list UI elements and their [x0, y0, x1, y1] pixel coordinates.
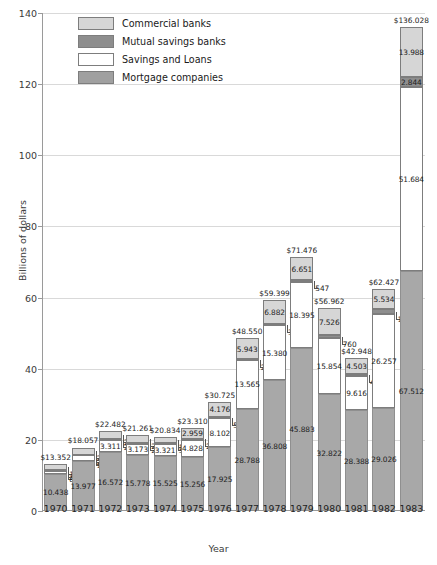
bar-total-label: $22.482	[95, 420, 126, 429]
bar-value-label-mortgage: 10.438	[43, 488, 68, 497]
legend-swatch-mortgage-companies	[78, 71, 114, 84]
bar-group[interactable]: 32.82215.8547607.526$56.962	[318, 308, 341, 511]
bar-segment-mutual[interactable]	[318, 335, 341, 338]
bar-value-label-savings: 3.311	[100, 442, 121, 451]
bar-value-label-commercial: 7.526	[319, 317, 340, 326]
bar-group[interactable]: 16.5723.3112612.338$22.482	[99, 431, 122, 511]
bar-total-label: $42.948	[341, 347, 372, 356]
bar-total-label: $62.427	[369, 278, 400, 287]
bar-group[interactable]: 13.9771.6412342.005$18.057	[72, 447, 95, 511]
bar-group[interactable]: 28.3889.6164414.503$42.948	[345, 358, 368, 511]
bar-value-label-commercial: 13.988	[399, 48, 424, 57]
bar-value-label-commercial: 4.503	[346, 362, 367, 371]
legend-label-savings-and-loans: Savings and Loans	[122, 54, 212, 65]
legend-label-mortgage-companies: Mortgage companies	[122, 72, 223, 83]
legend-item-commercial-banks: Commercial banks	[78, 14, 226, 32]
bar-value-label-savings: 3.173	[127, 445, 148, 454]
bar-value-label-mortgage: 32.822	[317, 448, 342, 457]
bar-group[interactable]: 29.02626.2571.6105.534$62.427	[372, 289, 395, 511]
bar-value-label-savings: 15.380	[262, 348, 287, 357]
bar-segment-mutual[interactable]	[290, 280, 313, 282]
bar-total-label: $18.057	[68, 436, 99, 445]
bar-value-label-commercial: 4.176	[209, 405, 230, 414]
legend-label-mutual-savings-banks: Mutual savings banks	[122, 36, 226, 47]
y-axis-tick-label: 0	[31, 506, 37, 517]
y-axis-tick-label: 20	[25, 434, 37, 445]
x-axis-tick-label: 1983	[399, 503, 423, 514]
bar-segment-mutual[interactable]	[208, 416, 231, 418]
x-axis-tick-label: 1979	[290, 503, 314, 514]
bar-segment-savings[interactable]	[72, 455, 95, 461]
bar-value-label-savings: 4.828	[182, 444, 203, 453]
bar-total-label: $13.352	[40, 453, 71, 462]
bar-segment-commercial[interactable]	[154, 437, 177, 443]
bar-value-label-commercial: 2.959	[182, 429, 203, 438]
bar-segment-commercial[interactable]	[72, 448, 95, 455]
bar-segment-commercial[interactable]	[99, 431, 122, 439]
bar-total-label: $23.310	[177, 417, 208, 426]
bar-value-label-mortgage: 15.525	[152, 479, 177, 488]
bar-group[interactable]: 36.80815.3803296.882$59.399	[263, 300, 286, 511]
bar-value-label-savings: 9.616	[346, 388, 367, 397]
x-axis-title: Year	[0, 543, 437, 554]
bar-value-label-savings: 18.395	[289, 311, 314, 320]
bar-total-label: $56.962	[314, 297, 345, 306]
bar-value-label-mortgage: 17.925	[207, 475, 232, 484]
y-axis-tick-label: 60	[25, 292, 37, 303]
x-axis-tick-label: 1974	[153, 503, 177, 514]
bar-total-label: $21.261	[122, 424, 153, 433]
bar-group[interactable]: 15.7783.1732252.085$21.261	[126, 435, 149, 511]
bar-series-layer: 10.4388962701.748$13.35213.9771.6412342.…	[42, 13, 425, 511]
bar-group[interactable]: 67.51251.6842.84413.988$136.028	[400, 27, 423, 511]
legend-swatch-savings-and-loans	[78, 53, 114, 66]
x-axis-tick-label: 1982	[372, 503, 396, 514]
bar-value-label-savings: 26.257	[371, 357, 396, 366]
bar-value-label-mortgage: 45.883	[289, 425, 314, 434]
bar-total-label: $30.725	[205, 391, 236, 400]
bar-group[interactable]: 45.88318.3955476.651$71.476	[290, 257, 313, 511]
y-axis-tick-label: 140	[19, 8, 37, 19]
legend-item-mutual-savings-banks: Mutual savings banks	[78, 32, 226, 50]
bar-value-label-mortgage: 29.026	[371, 455, 396, 464]
bar-group[interactable]: 15.5253.3213051.683$20.834	[154, 437, 177, 511]
y-axis-tick-label: 120	[19, 79, 37, 90]
legend-swatch-mutual-savings-banks	[78, 35, 114, 48]
bar-value-label-commercial: 6.882	[264, 307, 285, 316]
bar-value-label-savings: 51.684	[399, 174, 424, 183]
bar-segment-commercial[interactable]	[44, 464, 67, 470]
bar-value-label-commercial: 5.534	[374, 294, 395, 303]
y-axis-tick-label: 100	[19, 150, 37, 161]
bar-total-label: $71.476	[287, 246, 318, 255]
bar-value-label-mortgage: 15.256	[180, 479, 205, 488]
bar-segment-mutual[interactable]	[372, 309, 395, 315]
legend-item-mortgage-companies: Mortgage companies	[78, 68, 226, 86]
bar-value-label-savings: 8.102	[209, 428, 230, 437]
legend-item-savings-and-loans: Savings and Loans	[78, 50, 226, 68]
bar-total-label: $20.834	[150, 426, 181, 435]
bar-value-label-savings: 13.565	[235, 380, 260, 389]
bar-group[interactable]: 15.2564.8282672.959$23.310	[181, 428, 204, 511]
x-axis-tick-label: 1973	[126, 503, 150, 514]
legend-label-commercial-banks: Commercial banks	[122, 18, 211, 29]
chart-legend: Commercial banks Mutual savings banks Sa…	[78, 14, 226, 86]
bar-group[interactable]: 17.9258.1025224.176$30.725	[208, 402, 231, 511]
bar-value-label-mortgage: 16.572	[98, 477, 123, 486]
bar-group[interactable]: 28.78813.5652545.943$48.550	[236, 338, 259, 511]
x-axis-tick-label: 1970	[44, 503, 68, 514]
bar-value-label-commercial: 6.651	[292, 264, 313, 273]
y-axis-title: Billions of dollars	[17, 181, 28, 301]
bar-value-label-commercial: 5.943	[237, 344, 258, 353]
x-axis-tick-label: 1975	[181, 503, 205, 514]
bar-value-label-mortgage: 36.808	[262, 441, 287, 450]
bar-value-label-mortgage: 13.977	[70, 482, 95, 491]
bar-value-label-savings: 15.854	[317, 362, 342, 371]
bar-segment-commercial[interactable]	[126, 435, 149, 442]
bar-total-label: $59.399	[259, 289, 290, 298]
bar-value-label-mortgage: 67.512	[399, 386, 424, 395]
y-axis-tick-label: 40	[25, 363, 37, 374]
x-axis-tick-label: 1981	[345, 503, 369, 514]
bar-total-label: $48.550	[232, 327, 263, 336]
bar-segment-savings[interactable]	[44, 471, 67, 474]
bar-value-label-mortgage: 28.788	[235, 455, 260, 464]
bar-value-label-mortgage: 15.778	[125, 478, 150, 487]
